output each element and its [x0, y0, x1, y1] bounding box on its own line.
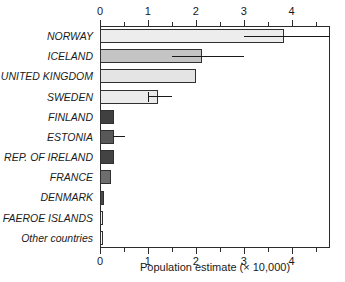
x-axis-title: Population estimate (× 10,000)	[100, 261, 330, 273]
x-tick-label: 2	[181, 5, 211, 17]
bar	[100, 231, 103, 245]
bar-row: FAEROE ISLANDS	[0, 208, 345, 228]
category-label: DENMARK	[40, 187, 93, 207]
category-label: NORWAY	[47, 26, 93, 46]
bar-rows: NORWAYICELANDUNITED KINGDOMSWEDENFINLAND…	[0, 26, 345, 248]
x-tick-minor	[172, 248, 173, 252]
x-tick-label: 3	[229, 5, 259, 17]
bar-row: UNITED KINGDOM	[0, 66, 345, 86]
category-label: ESTONIA	[47, 127, 93, 147]
x-tick-label: 0	[85, 5, 115, 17]
bar-row: FRANCE	[0, 167, 345, 187]
bar	[100, 130, 114, 144]
bar	[100, 110, 114, 124]
bar-row: SWEDEN	[0, 87, 345, 107]
bar-chart-figure: 01234 01234 NORWAYICELANDUNITED KINGDOMS…	[0, 0, 345, 282]
bar	[100, 191, 104, 205]
x-tick-minor	[268, 248, 269, 252]
x-tick-label: 1	[133, 5, 163, 17]
bar-row: REP. OF IRELAND	[0, 147, 345, 167]
category-label: ICELAND	[47, 46, 93, 66]
x-tick-major	[100, 248, 101, 254]
bar-row: ESTONIA	[0, 127, 345, 147]
error-bar-line	[172, 56, 244, 57]
category-label: SWEDEN	[47, 87, 93, 107]
error-bar-line	[244, 36, 330, 37]
bar	[100, 150, 114, 164]
bar-row: FINLAND	[0, 107, 345, 127]
x-tick-minor	[220, 248, 221, 252]
x-tick-major	[148, 248, 149, 254]
x-tick-minor	[316, 248, 317, 252]
category-label: UNITED KINGDOM	[1, 66, 93, 86]
bar	[100, 69, 196, 83]
category-label: Other countries	[21, 228, 93, 248]
x-tick-label: 4	[277, 5, 307, 17]
bar	[100, 211, 103, 225]
x-tick-major	[292, 248, 293, 254]
x-tick-minor	[124, 248, 125, 252]
x-tick-major	[244, 248, 245, 254]
bar-row: ICELAND	[0, 46, 345, 66]
category-label: FINLAND	[48, 107, 93, 127]
bar	[100, 170, 111, 184]
bar-row: NORWAY	[0, 26, 345, 46]
category-label: FRANCE	[50, 167, 93, 187]
category-label: FAEROE ISLANDS	[3, 208, 93, 228]
bar-row: DENMARK	[0, 187, 345, 207]
bar-row: Other countries	[0, 228, 345, 248]
error-bar-line	[113, 136, 125, 137]
x-tick-major	[196, 248, 197, 254]
error-bar-cap	[148, 92, 149, 102]
category-label: REP. OF IRELAND	[4, 147, 93, 167]
error-bar-line	[148, 96, 172, 97]
